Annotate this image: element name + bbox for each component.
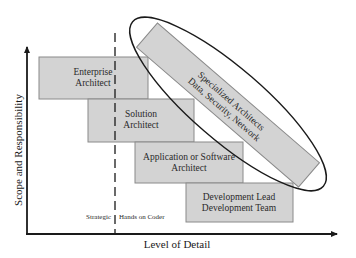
- role-label-line2: Development Team: [202, 203, 277, 213]
- strategic-label: Strategic: [86, 213, 111, 221]
- y-axis-label: Scope and Responsibility: [12, 94, 24, 206]
- role-label-line2: Architect: [75, 78, 111, 88]
- role-label-line1: Application or Software: [143, 152, 235, 162]
- career-diagram: Enterprise Architect Solution Architect …: [0, 0, 356, 258]
- role-label-line1: Development Lead: [203, 192, 276, 202]
- role-solution-architect: Solution Architect: [88, 99, 194, 142]
- role-label-line2: Architect: [171, 163, 207, 173]
- role-application-architect: Application or Software Architect: [135, 142, 243, 183]
- role-label-line1: Solution: [125, 109, 157, 119]
- role-development-lead: Development Lead Development Team: [186, 183, 293, 222]
- x-axis-label: Level of Detail: [144, 238, 211, 250]
- role-enterprise-architect: Enterprise Architect: [39, 57, 148, 99]
- hands-on-coder-label: Hands on Coder: [119, 213, 165, 221]
- role-label-line2: Architect: [123, 120, 159, 130]
- role-label-line1: Enterprise: [73, 67, 112, 77]
